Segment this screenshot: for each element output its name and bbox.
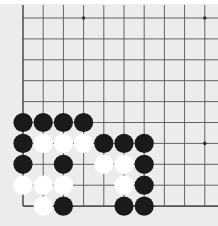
white-stone <box>54 176 73 195</box>
white-stone <box>114 155 133 174</box>
white-stone <box>13 176 32 195</box>
white-stone <box>94 155 113 174</box>
black-stone <box>13 134 32 153</box>
white-stone <box>34 176 53 195</box>
star-point-icon <box>203 142 207 146</box>
black-stone <box>135 197 154 216</box>
black-stone <box>135 176 154 195</box>
star-point-icon <box>82 16 86 20</box>
black-stone <box>135 155 154 174</box>
black-stone <box>114 134 133 153</box>
white-stone <box>34 197 53 216</box>
star-point-icon <box>203 16 207 20</box>
black-stone <box>54 155 73 174</box>
grid-lines <box>23 5 218 206</box>
black-stone <box>114 197 133 216</box>
white-stone <box>114 176 133 195</box>
black-stone <box>54 113 73 132</box>
black-stone <box>54 197 73 216</box>
white-stone <box>74 134 93 153</box>
white-stone <box>34 134 53 153</box>
go-board-grid <box>0 0 218 226</box>
black-stone <box>135 134 154 153</box>
go-board <box>0 4 218 226</box>
black-stone <box>13 155 32 174</box>
white-stone <box>54 134 73 153</box>
black-stone <box>74 113 93 132</box>
black-stone <box>34 113 53 132</box>
black-stone <box>94 134 113 153</box>
black-stone <box>13 113 32 132</box>
